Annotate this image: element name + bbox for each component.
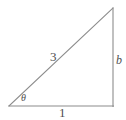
adjacent-side-label: 1 [59,106,66,119]
right-triangle-figure: 3 b 1 θ [0,0,126,120]
hypotenuse-label: 3 [50,50,57,63]
opposite-side-label: b [116,54,122,66]
triangle-drawing [0,0,126,120]
angle-theta-label: θ [21,93,26,103]
